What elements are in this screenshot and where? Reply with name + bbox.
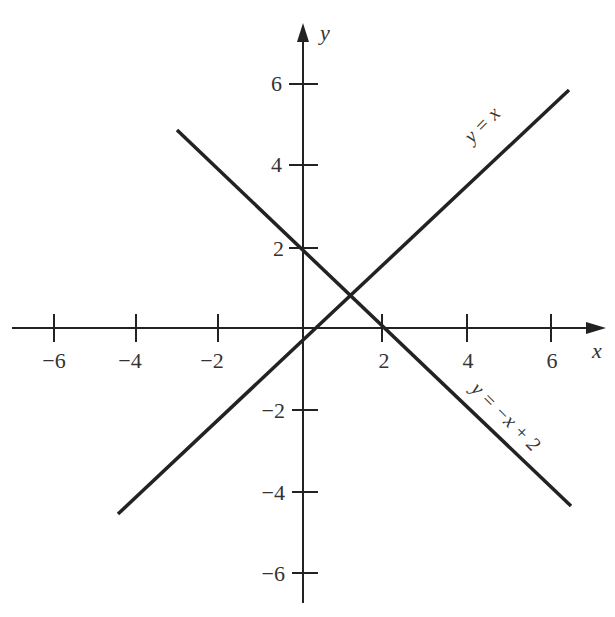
x-axis: [12, 314, 606, 342]
x-axis-arrow-icon: [586, 322, 606, 334]
line-y-equals-x: [118, 90, 569, 514]
y-tick-label: 6: [271, 71, 282, 96]
y-axis-arrow-icon: [297, 23, 309, 42]
x-tick-label: 6: [547, 348, 558, 373]
y-tick-label: −4: [262, 480, 285, 505]
y-tick-label: −6: [262, 561, 285, 586]
line-y-equals-neg-x-plus-2: [177, 130, 571, 506]
x-axis-label: x: [591, 338, 602, 363]
x-tick-label: 2: [379, 348, 390, 373]
x-tick-label: −4: [118, 348, 141, 373]
x-tick-labels: −6 −4 −2 2 4 6: [42, 348, 557, 373]
y-axis-label: y: [318, 20, 330, 45]
y-axis: [289, 23, 318, 603]
x-tick-label: −2: [200, 348, 223, 373]
x-tick-label: 4: [463, 348, 474, 373]
y-tick-label: −2: [262, 398, 285, 423]
x-tick-label: −6: [42, 348, 65, 373]
y-tick-label: 4: [271, 152, 282, 177]
y-tick-label: 2: [273, 236, 284, 261]
coordinate-plane-figure: −6 −4 −2 2 4 6 6 4 2 −2 −4 −6 x y y = x …: [0, 0, 615, 617]
line-label-y-equals-x: y = x: [458, 102, 505, 149]
